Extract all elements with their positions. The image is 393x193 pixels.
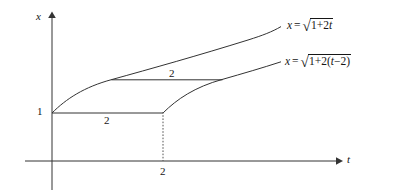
radicand-lead: 1+2(: [309, 55, 331, 67]
equation-label-shifted: x=√1+2(t−2): [285, 54, 351, 70]
x-axis-label: t: [347, 154, 350, 165]
equation-shifted-equals: =: [292, 55, 299, 67]
curve-original-path: [52, 27, 281, 113]
equation-original-radicand: 1+2t: [310, 18, 333, 32]
x-tick-label-2: 2: [160, 166, 166, 177]
x-axis-arrowhead: [48, 12, 56, 19]
equation-label-original: x=√1+2t: [287, 18, 333, 34]
equation-shifted-lhs: x: [285, 55, 290, 67]
t-axis-arrowhead: [336, 157, 343, 165]
lower-measure-label: 2: [104, 115, 110, 126]
equation-shifted-radicand: 1+2(t−2): [308, 54, 351, 68]
equation-original-equals: =: [294, 19, 301, 31]
radicand-tail: −2): [334, 55, 350, 67]
upper-measure-label: 2: [169, 68, 175, 79]
figure-svg: [0, 0, 393, 193]
y-tick-label-1: 1: [37, 106, 43, 117]
equation-original-radical: √1+2t: [303, 18, 334, 34]
radicand-lead: 1+2: [311, 19, 329, 31]
figure-container: x t 1 2 2 2 x=√1+2t x=√1+2(t−2): [0, 0, 393, 193]
radicand-var: t: [329, 19, 332, 31]
equation-original-lhs: x: [287, 19, 292, 31]
curve-shifted-path: [163, 62, 281, 113]
equation-shifted-radical: √1+2(t−2): [301, 54, 351, 70]
y-axis-label: x: [36, 11, 41, 22]
